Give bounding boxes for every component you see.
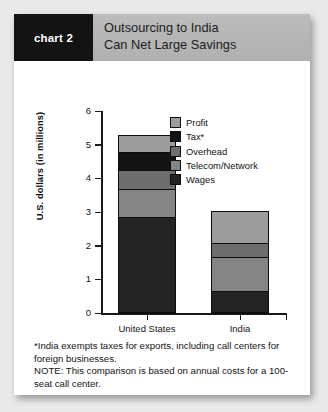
x-axis-tick xyxy=(147,314,148,320)
chart-title-line-2: Can Net Large Savings xyxy=(104,37,304,54)
y-axis-tick-label: 4 xyxy=(72,172,91,183)
legend-swatch xyxy=(170,174,181,185)
y-axis-tick-label: 5 xyxy=(72,139,91,150)
legend-label: Telecom/Network xyxy=(186,160,258,171)
y-axis-tick-label: 0 xyxy=(72,307,91,318)
chart-title-line-1: Outsourcing to India xyxy=(104,20,304,37)
legend-item: Profit xyxy=(170,116,300,130)
y-axis-tick xyxy=(95,245,101,246)
chart-notes: *India exempts taxes for exports, includ… xyxy=(34,340,296,390)
x-axis-label: United States xyxy=(99,323,195,334)
bar-segment xyxy=(119,136,175,153)
legend-label: Wages xyxy=(186,174,215,185)
legend-item: Overhead xyxy=(170,144,300,158)
bar-segment xyxy=(212,244,268,257)
note-text: NOTE: This comparison is based on annual… xyxy=(34,365,296,390)
bar-segment xyxy=(212,258,268,292)
y-axis-tick-label: 2 xyxy=(72,240,91,251)
legend-swatch xyxy=(170,117,181,128)
x-axis-label: India xyxy=(192,323,288,334)
plot-area: U.S. dollars (in millions) 0123456 Unite… xyxy=(14,61,310,331)
y-axis-tick xyxy=(95,212,101,213)
y-axis-tick-label: 6 xyxy=(72,105,91,116)
x-axis-line xyxy=(101,313,287,315)
legend-label: Profit xyxy=(186,117,208,128)
chart-card: chart 2 Outsourcing to India Can Net Lar… xyxy=(14,14,310,395)
x-axis-tick xyxy=(240,314,241,320)
x-axis-end-tick xyxy=(286,314,287,320)
bar-segment xyxy=(119,190,175,218)
legend-swatch xyxy=(170,160,181,171)
bar-segment xyxy=(212,292,268,313)
stacked-bar xyxy=(119,136,175,314)
bar-segment xyxy=(119,171,175,190)
legend-swatch xyxy=(170,131,181,142)
chart-title: Outsourcing to India Can Net Large Savin… xyxy=(104,20,304,53)
legend-label: Overhead xyxy=(186,146,227,157)
chart-number-tag: chart 2 xyxy=(14,14,93,61)
y-axis-tick-label: 1 xyxy=(72,273,91,284)
y-axis-line xyxy=(101,111,103,315)
chart-legend: ProfitTax*OverheadTelecom/NetworkWages xyxy=(170,116,300,187)
stacked-bar xyxy=(212,212,268,313)
legend-item: Tax* xyxy=(170,130,300,144)
bar-segment xyxy=(119,153,175,172)
y-axis-tick xyxy=(95,313,101,314)
page-background: chart 2 Outsourcing to India Can Net Lar… xyxy=(0,0,328,412)
y-axis-tick-label: 3 xyxy=(72,206,91,217)
y-axis-tick xyxy=(95,144,101,145)
footnote-text: *India exempts taxes for exports, includ… xyxy=(34,340,296,365)
bar-segment xyxy=(119,218,175,313)
y-axis-tick xyxy=(95,178,101,179)
legend-swatch xyxy=(170,146,181,157)
y-axis-tick xyxy=(95,279,101,280)
y-axis-tick xyxy=(95,111,101,112)
y-axis-title: U.S. dollars (in millions) xyxy=(35,96,45,236)
legend-item: Wages xyxy=(170,173,300,187)
legend-item: Telecom/Network xyxy=(170,159,300,173)
legend-label: Tax* xyxy=(186,131,204,142)
chart-header: chart 2 Outsourcing to India Can Net Lar… xyxy=(14,14,310,61)
bar-segment xyxy=(212,212,268,244)
